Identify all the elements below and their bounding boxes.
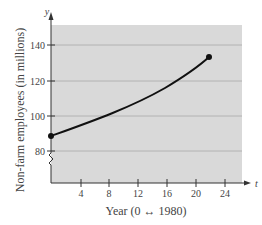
start-point bbox=[48, 133, 54, 139]
y-axis-var: y bbox=[44, 6, 50, 17]
y-tick-label: 140 bbox=[30, 40, 45, 51]
y-tick-label: 100 bbox=[30, 111, 45, 122]
x-tick-label: 16 bbox=[162, 188, 172, 199]
x-tick-label: 8 bbox=[107, 188, 112, 199]
x-tick-label: 24 bbox=[220, 188, 230, 199]
x-axis-var: t bbox=[255, 178, 258, 189]
x-axis-title: Year (0 ↔ 1980) bbox=[105, 204, 186, 218]
y-tick-label: 80 bbox=[35, 146, 45, 157]
x-tick-label: 12 bbox=[133, 188, 143, 199]
y-tick-label: 120 bbox=[30, 76, 45, 87]
x-tick-label: 20 bbox=[191, 188, 201, 199]
end-point bbox=[206, 54, 212, 60]
y-axis-title: Non-farm employees (in millions) bbox=[13, 28, 27, 192]
x-tick-label: 4 bbox=[79, 188, 84, 199]
line-chart: y t 140 120 100 80 4 8 12 16 20 24 Year … bbox=[0, 0, 262, 225]
plot-area bbox=[51, 25, 242, 183]
